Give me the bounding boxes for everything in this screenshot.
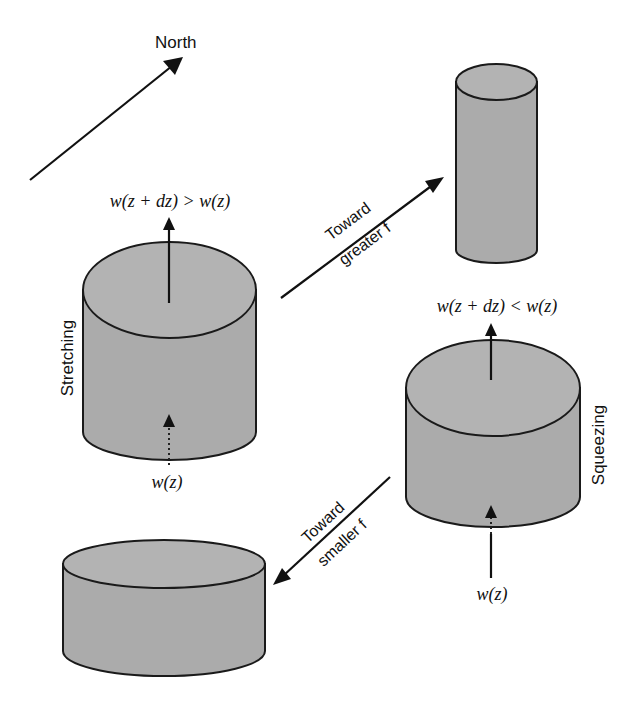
arrowhead-icon [425,177,444,193]
stretching-top-relation: w(z + dz) > w(z) [110,191,230,212]
up-arrowhead-icon [485,323,497,336]
arrow-toward-smaller-f [273,477,390,585]
up-arrowhead-icon [163,217,175,230]
squeezing-bottom-label: w(z) [477,584,508,605]
north-label: North [155,33,197,52]
squeezing-top-relation: w(z + dz) < w(z) [437,296,557,317]
north-arrow [30,57,183,180]
greater-f-caption: Toward greater f [319,196,394,268]
squeezing-inflow-arrow [485,505,497,578]
flat-column [63,540,265,676]
tall-column [456,64,537,263]
north-arrowhead-icon [163,57,183,75]
squeezing-column [406,340,580,527]
vorticity-column-diagram: North w(z + dz) > w(z) w(z) Stretching T… [0,0,638,702]
stretching-bottom-label: w(z) [152,472,183,493]
stretching-side-label: Stretching [58,320,77,397]
squeezing-side-label: Squeezing [589,405,608,485]
